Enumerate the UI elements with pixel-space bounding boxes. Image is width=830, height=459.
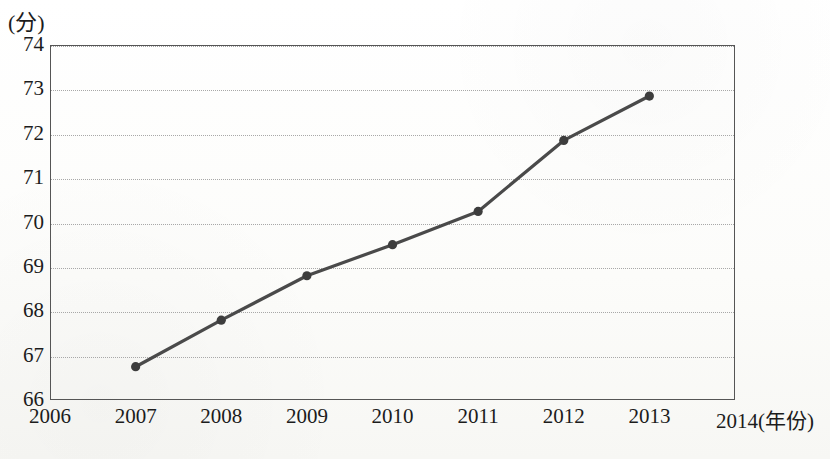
x-axis-tick-label: 2010 (372, 404, 414, 429)
y-axis-tick-label: 73 (4, 76, 44, 101)
plot-area (50, 45, 735, 400)
x-axis-tick-label: 2013 (628, 404, 670, 429)
x-axis-tick-label: 2009 (286, 404, 328, 429)
line-chart: (分) 666768697071727374 20062007200820092… (0, 0, 830, 459)
y-axis-tick-label: 67 (4, 343, 44, 368)
x-axis-tick-label: 2007 (115, 404, 157, 429)
x-axis-tick-label: 2011 (458, 404, 499, 429)
y-axis-tick-label: 71 (4, 165, 44, 190)
gridline (51, 179, 734, 180)
y-axis-tick-label: 72 (4, 121, 44, 146)
y-axis-tick-label: 69 (4, 254, 44, 279)
x-axis-tick-label: 2008 (200, 404, 242, 429)
x-axis-tick-label: 2006 (29, 404, 71, 429)
gridline (51, 90, 734, 91)
gridline (51, 46, 734, 47)
gridline (51, 357, 734, 358)
y-axis-tick-label: 68 (4, 298, 44, 323)
x-axis-tick-label: 2014(年份) (716, 404, 814, 434)
y-axis-tick-label: 70 (4, 210, 44, 235)
y-axis-tick-label: 74 (4, 32, 44, 57)
gridline (51, 268, 734, 269)
gridline (51, 312, 734, 313)
gridline (51, 135, 734, 136)
x-axis-tick-label: 2012 (543, 404, 585, 429)
gridline (51, 224, 734, 225)
